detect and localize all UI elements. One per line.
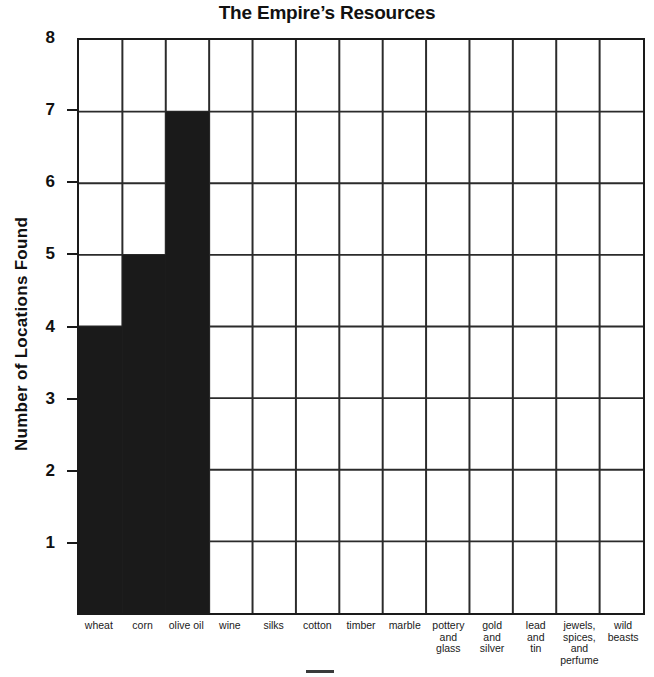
- y-tick-label: 6: [13, 173, 55, 190]
- y-tick-label: 8: [13, 29, 55, 46]
- x-tick-label-line: wild: [595, 620, 651, 632]
- x-tick-label-line: perfume: [552, 655, 608, 667]
- bar-chart: The Empire’s Resources Number of Locatio…: [0, 0, 654, 677]
- y-tick-mark: [67, 542, 77, 544]
- y-axis-ticks: 12345678: [0, 0, 77, 677]
- x-axis-title-clipped: [306, 670, 334, 673]
- x-tick-label: wildbeasts: [595, 620, 651, 643]
- x-tick-label-line: beasts: [595, 632, 651, 644]
- y-tick-label: 1: [13, 534, 55, 551]
- y-tick-label: 4: [13, 318, 55, 335]
- y-tick-label: 7: [13, 101, 55, 118]
- y-tick-mark: [67, 326, 77, 328]
- bar: [166, 112, 209, 613]
- y-tick-label: 5: [13, 245, 55, 262]
- y-tick-mark: [67, 470, 77, 472]
- x-axis-labels: wheatcornolive oilwinesilkscottontimberm…: [77, 620, 645, 677]
- x-tick-label-line: and: [552, 643, 608, 655]
- y-tick-mark: [67, 398, 77, 400]
- bar: [122, 255, 165, 613]
- bar-series: [79, 40, 643, 613]
- bar: [79, 327, 122, 614]
- y-tick-mark: [67, 253, 77, 255]
- y-tick-mark: [67, 181, 77, 183]
- chart-title: The Empire’s Resources: [0, 2, 654, 24]
- y-tick-mark: [67, 109, 77, 111]
- y-tick-label: 2: [13, 462, 55, 479]
- y-tick-label: 3: [13, 390, 55, 407]
- plot-area: [77, 38, 645, 615]
